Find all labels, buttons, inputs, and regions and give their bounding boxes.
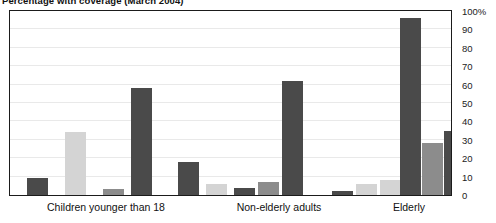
bar (332, 191, 353, 195)
x-axis-category-label: Elderly (393, 201, 425, 213)
x-axis-category-label: Non-elderly adults (237, 201, 322, 213)
y-axis-tick-label: 100% (462, 7, 486, 17)
y-axis-tick-label: 10 (462, 173, 473, 183)
bar (178, 162, 199, 195)
chart-title: Percentage with coverage (March 2004) (2, 0, 184, 6)
bar (380, 180, 401, 195)
y-axis-tick-label: 80 (462, 44, 473, 54)
y-axis-tick-label: 90 (462, 25, 473, 35)
gridline-50 (10, 102, 451, 103)
gridline-80 (10, 47, 451, 48)
bar (103, 189, 124, 195)
plot-area (9, 10, 452, 196)
x-axis-category-label: Children younger than 18 (47, 201, 165, 213)
gridline-40 (10, 120, 451, 121)
chart-figure: Percentage with coverage (March 2004) 01… (0, 0, 496, 223)
y-axis-tick-label: 20 (462, 154, 473, 164)
bar (65, 132, 86, 195)
y-axis: 0102030405060708090100% (462, 0, 496, 223)
bar (444, 131, 452, 195)
bar (282, 81, 303, 195)
gridline-70 (10, 65, 451, 66)
bar (422, 143, 443, 195)
bar (356, 184, 377, 195)
bar (27, 178, 48, 195)
bar (258, 182, 279, 195)
gridline-90 (10, 28, 451, 29)
bar (131, 88, 152, 195)
gridline-60 (10, 84, 451, 85)
x-axis: Children younger than 18Non-elderly adul… (9, 199, 452, 221)
y-axis-tick-label: 30 (462, 136, 473, 146)
y-axis-tick-label: 40 (462, 117, 473, 127)
y-axis-tick-label: 0 (462, 191, 467, 201)
y-axis-tick-label: 50 (462, 99, 473, 109)
y-axis-tick-label: 70 (462, 62, 473, 72)
bar (206, 184, 227, 195)
bar (234, 188, 255, 195)
y-axis-tick-label: 60 (462, 81, 473, 91)
bar (400, 18, 421, 195)
